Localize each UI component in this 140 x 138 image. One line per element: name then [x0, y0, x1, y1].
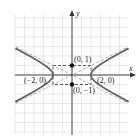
point-label-top: (0, 1) — [74, 56, 91, 64]
vertex-label-right: (2, 0) — [97, 77, 114, 85]
x-axis-label: x — [129, 65, 133, 73]
axes — [15, 10, 136, 135]
vertex-label-left: (−2, 0) — [24, 77, 46, 85]
point-label-bottom: (0, −1) — [73, 87, 95, 95]
hyperbola-plot — [0, 0, 140, 138]
y-axis-label: y — [76, 10, 80, 18]
